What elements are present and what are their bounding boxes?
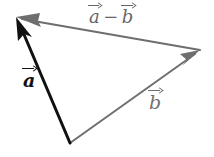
label-a-minus-b: a−b	[88, 8, 135, 26]
label-a: a	[22, 71, 36, 90]
label-a-minus-b-operator: −	[101, 8, 121, 26]
label-a-minus-b-second: b	[121, 8, 135, 26]
vector-b-shaft	[70, 54, 195, 143]
label-b: b	[148, 93, 162, 112]
vector-diagram-figure: a−b a b	[0, 0, 214, 157]
label-a-minus-b-first: a	[88, 8, 101, 26]
label-b-letter: b	[148, 93, 162, 112]
vector-b	[70, 50, 200, 143]
label-a-letter: a	[22, 71, 36, 90]
